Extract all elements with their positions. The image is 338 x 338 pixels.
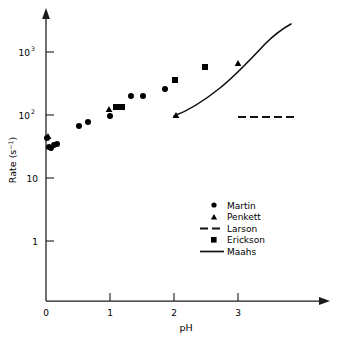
legend-label-martin: Martin xyxy=(227,201,256,211)
legend-label-penkett: Penkett xyxy=(227,212,261,222)
y-tick-label-1: 1 xyxy=(32,237,38,247)
series-penkett-points xyxy=(45,60,242,139)
y-tick-label-1000-base: 10 xyxy=(19,48,31,58)
data-point-martin xyxy=(128,93,134,99)
series-martin-points xyxy=(44,86,168,151)
data-point-martin xyxy=(54,141,60,147)
y-tick-label-100-exp: 2 xyxy=(31,108,35,115)
data-point-erickson xyxy=(119,104,125,110)
legend-label-larson: Larson xyxy=(227,224,257,234)
data-point-erickson xyxy=(202,64,208,70)
y-axis-title-sup: −1 xyxy=(7,141,14,150)
svg-text:Rate (s−1): Rate (s−1) xyxy=(7,137,18,183)
legend-marker-square-icon xyxy=(211,237,217,243)
data-point-martin xyxy=(85,119,91,125)
y-tick-label-1000-exp: 3 xyxy=(31,45,35,52)
x-tick-label-0: 0 xyxy=(43,308,49,318)
data-point-penkett xyxy=(106,106,113,112)
data-point-penkett xyxy=(235,60,242,66)
y-axis-title-close: ) xyxy=(7,137,18,141)
y-tick-label-100-base: 10 xyxy=(19,111,31,121)
data-point-erickson xyxy=(113,104,119,110)
legend-label-erickson: Erickson xyxy=(227,235,265,245)
x-axis-arrowhead xyxy=(319,297,330,305)
y-axis-arrowhead xyxy=(42,8,50,19)
y-tick-label-10: 10 xyxy=(27,174,39,184)
data-point-martin xyxy=(140,93,146,99)
data-point-martin xyxy=(107,113,113,119)
legend-label-maahs: Maahs xyxy=(227,247,256,257)
legend: Martin Penkett Larson Erickson Maahs xyxy=(200,201,265,257)
data-point-martin xyxy=(162,86,168,92)
series-maahs-curve xyxy=(174,24,291,116)
legend-marker-triangle-icon xyxy=(211,214,217,220)
x-tick-label-2: 2 xyxy=(171,308,177,318)
x-tick-group: 0 1 2 3 xyxy=(43,293,241,318)
data-point-erickson xyxy=(172,77,178,83)
x-tick-label-3: 3 xyxy=(235,308,241,318)
axis-group xyxy=(42,8,330,305)
series-erickson-points xyxy=(113,64,208,110)
scatter-plot: 10 3 10 2 10 1 0 1 2 3 pH Rate (s−1) xyxy=(0,0,338,338)
x-tick-label-1: 1 xyxy=(107,308,113,318)
legend-marker-circle-icon xyxy=(211,202,216,207)
y-axis-title-main: Rate (s xyxy=(7,150,18,184)
data-point-martin xyxy=(76,123,82,129)
chart-figure: 10 3 10 2 10 1 0 1 2 3 pH Rate (s−1) xyxy=(0,0,338,338)
x-axis-title: pH xyxy=(179,322,192,333)
y-axis-title: Rate (s−1) xyxy=(7,137,18,183)
